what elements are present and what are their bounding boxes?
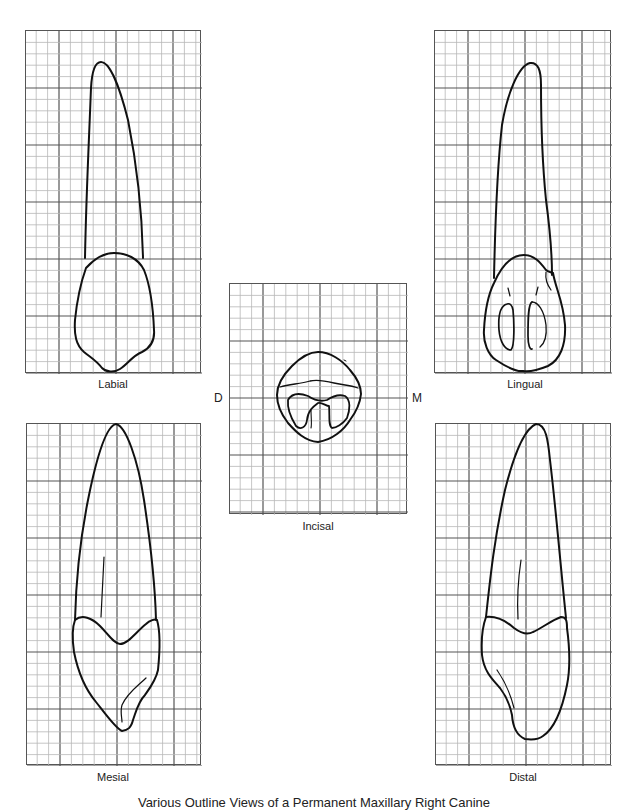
grid-lines xyxy=(230,284,408,515)
grid-lines xyxy=(435,31,612,374)
mesial-label: Mesial xyxy=(91,771,135,783)
grid-lines xyxy=(27,424,202,766)
labial-grid xyxy=(25,30,201,373)
grid-lines xyxy=(26,31,202,374)
distal-direction-label: D xyxy=(214,391,223,405)
lingual-label: Lingual xyxy=(503,378,547,390)
mesial-direction-label: M xyxy=(412,391,422,405)
mesial-grid xyxy=(26,423,201,765)
incisal-label: Incisal xyxy=(296,520,340,532)
incisal-grid xyxy=(229,283,407,514)
grid-lines xyxy=(436,424,612,766)
distal-grid xyxy=(435,423,611,765)
labial-label: Labial xyxy=(93,378,133,390)
distal-label: Distal xyxy=(501,771,545,783)
lingual-grid xyxy=(434,30,611,373)
figure-caption: Various Outline Views of a Permanent Max… xyxy=(0,795,628,810)
